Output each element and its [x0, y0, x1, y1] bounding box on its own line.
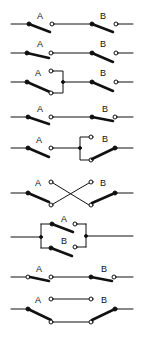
row-parallel: A B	[11, 214, 133, 256]
label-a: A	[36, 135, 42, 145]
label-a: A	[37, 104, 43, 114]
row-b-transfer: A B	[11, 134, 133, 162]
label-b: B	[100, 39, 106, 49]
label-b: B	[100, 11, 106, 21]
label-a: A	[37, 11, 43, 21]
label-b: B	[61, 236, 67, 246]
row-a-transfer: A B	[11, 68, 133, 95]
row-series-both-open: A B	[11, 11, 133, 32]
label-a: A	[36, 264, 42, 274]
label-a: A	[61, 214, 67, 224]
row-crossover: A B	[11, 178, 133, 207]
label-b: B	[102, 134, 108, 144]
label-b: B	[100, 68, 106, 78]
row-bypass: A B	[11, 295, 133, 324]
label-a: A	[37, 39, 43, 49]
label-b: B	[101, 264, 107, 274]
switch-diagram: A B A B A B	[0, 0, 144, 339]
row-series-both-closed: A B	[11, 264, 133, 281]
label-b: B	[102, 104, 108, 114]
row-series-a-closed: A B	[11, 39, 133, 62]
label-a: A	[35, 295, 41, 305]
label-b: B	[100, 178, 106, 188]
label-a: A	[35, 178, 41, 188]
row-series-both-open-2: A B	[11, 104, 133, 124]
label-a: A	[35, 68, 41, 78]
label-b: B	[101, 295, 107, 305]
